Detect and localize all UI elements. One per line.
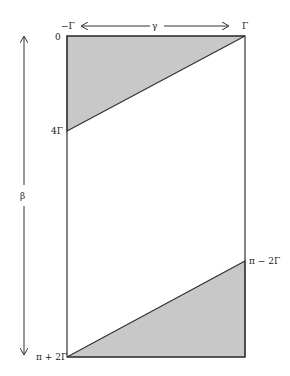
label-gamma: γ xyxy=(152,21,157,31)
label-pi-minus-2gamma: π − 2Γ xyxy=(249,256,280,266)
label-zero: 0 xyxy=(55,32,61,42)
upper-shaded-region xyxy=(67,36,245,131)
lower-shaded-region xyxy=(67,261,245,357)
diagram-canvas: −Γ Γ γ 0 4Γ π − 2Γ π + 2Γ β xyxy=(0,0,290,376)
label-pi-plus-2gamma: π + 2Γ xyxy=(36,352,67,362)
label-gamma-cap: Γ xyxy=(242,21,248,31)
label-beta: β xyxy=(20,191,25,201)
label-four-gamma: 4Γ xyxy=(51,126,63,136)
label-minus-gamma: −Γ xyxy=(61,21,75,31)
